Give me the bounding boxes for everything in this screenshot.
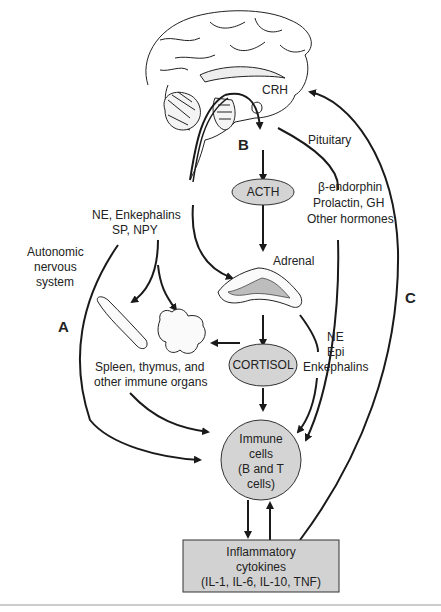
b-label: B xyxy=(238,138,249,152)
immune-line1: Immune xyxy=(221,432,301,446)
arrow-to-spleen xyxy=(132,240,158,302)
immune-line2: cells xyxy=(221,447,301,461)
adrenal-med-line1: NE xyxy=(327,330,344,344)
adrenal-med-line3: Enkephalins xyxy=(303,360,368,374)
arrow-c-feedback xyxy=(300,92,398,540)
ans-line3: system xyxy=(36,275,74,289)
adrenal-illustration xyxy=(218,268,302,307)
arrow-organs-to-immune xyxy=(130,393,208,432)
diagram-canvas xyxy=(0,0,441,612)
arrow-to-thymus xyxy=(158,265,176,310)
arrow-a-autonomic xyxy=(80,245,200,460)
immune-line3: (B and T xyxy=(221,462,301,476)
cytokines-line2: cytokines xyxy=(183,560,339,574)
adrenal-med-line2: Epi xyxy=(327,345,344,359)
c-label: C xyxy=(405,291,416,305)
adrenal-label: Adrenal xyxy=(273,254,314,268)
organs-line1: Spleen, thymus, and xyxy=(95,360,204,374)
thymus-illustration xyxy=(158,309,205,353)
pit-hormones-line2: Prolactin, GH xyxy=(313,196,384,210)
cytokines-line3: (IL-1, IL-6, IL-10, TNF) xyxy=(183,575,339,589)
organs-line2: other immune organs xyxy=(94,375,207,389)
cortisol-label: CORTISOL xyxy=(229,358,297,372)
pit-hormones-line3: Other hormones xyxy=(307,212,394,226)
crh-label: CRH xyxy=(262,83,288,97)
arrow-brain-to-adrenal xyxy=(193,205,232,278)
ne-enk-line2: SP, NPY xyxy=(112,223,158,237)
ne-enk-line1: NE, Enkephalins xyxy=(92,208,181,222)
pituitary-label: Pituitary xyxy=(308,133,351,147)
ans-line2: nervous xyxy=(34,260,77,274)
immune-line4: cells) xyxy=(221,477,301,491)
spleen-illustration xyxy=(97,297,147,349)
pit-hormones-line1: β-endorphin xyxy=(318,180,382,194)
cytokines-line1: Inflammatory xyxy=(183,545,339,559)
ans-line1: Autonomic xyxy=(27,245,84,259)
a-label: A xyxy=(58,320,69,334)
acth-label: ACTH xyxy=(232,185,294,199)
